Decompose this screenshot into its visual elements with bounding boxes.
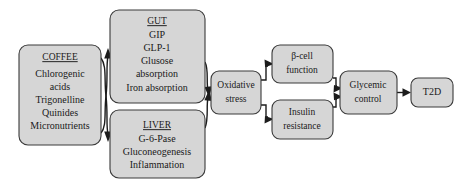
edge-glycemic-control-to-t2d — [397, 88, 411, 96]
coffee-node-heading: COFFEE — [42, 52, 78, 62]
glycemic-control-line-2: control — [355, 94, 382, 104]
beta-cell-function-node[interactable]: β-cell function — [272, 45, 333, 83]
liver-node-line-2: Gluconeogenesis — [123, 146, 191, 157]
t2d-node[interactable]: T2D — [411, 78, 453, 107]
gut-node-line-4: absorption — [136, 68, 178, 79]
liver-node[interactable]: LIVER G-6-Pase Gluconeogenesis Inflammat… — [110, 110, 205, 178]
oxidative-stress-line-2: stress — [225, 94, 246, 104]
insulin-resistance-line-1: Insulin — [289, 107, 316, 117]
coffee-node-line-3: Trigonelline — [35, 94, 85, 105]
gut-node-line-5: Iron absorption — [126, 82, 187, 93]
nodes-layer: COFFEE Chlorogenic acids Trigonelline Qu… — [19, 10, 453, 178]
gut-node-line-3: Glusose — [141, 55, 174, 66]
gut-node-line-1: GIP — [149, 29, 166, 40]
gut-node-line-2: GLP-1 — [143, 42, 170, 53]
beta-cell-line-1: β-cell — [291, 51, 313, 61]
oxidative-stress-node[interactable]: Oxidative stress — [211, 71, 261, 114]
glycemic-control-node[interactable]: Glycemic control — [340, 71, 397, 114]
coffee-node-line-2: acids — [50, 81, 71, 92]
coffee-node-line-5: Micronutrients — [30, 120, 90, 131]
arrow-head-icon — [403, 88, 412, 96]
liver-node-line-1: G-6-Pase — [138, 133, 176, 144]
beta-cell-line-2: function — [286, 65, 318, 75]
flowchart-canvas: COFFEE Chlorogenic acids Trigonelline Qu… — [0, 0, 465, 196]
insulin-resistance-line-2: resistance — [283, 121, 320, 131]
oxidative-stress-line-1: Oxidative — [217, 80, 254, 90]
coffee-node-line-1: Chlorogenic — [35, 68, 85, 79]
insulin-resistance-node-box[interactable] — [272, 100, 333, 139]
glycemic-control-line-1: Glycemic — [350, 80, 387, 90]
coffee-node-line-4: Quinides — [42, 107, 78, 118]
oxidative-stress-node-box[interactable] — [211, 71, 261, 114]
flowchart-diagram: COFFEE Chlorogenic acids Trigonelline Qu… — [0, 0, 465, 196]
liver-node-heading: LIVER — [143, 120, 172, 130]
t2d-line-1: T2D — [423, 86, 441, 97]
gut-node-heading: GUT — [147, 16, 167, 26]
insulin-resistance-node[interactable]: Insulin resistance — [272, 100, 333, 139]
glycemic-control-node-box[interactable] — [340, 71, 397, 114]
coffee-node[interactable]: COFFEE Chlorogenic acids Trigonelline Qu… — [19, 45, 101, 145]
gut-node[interactable]: GUT GIP GLP-1 Glusose absorption Iron ab… — [110, 10, 205, 103]
liver-node-line-3: Inflammation — [130, 159, 184, 170]
